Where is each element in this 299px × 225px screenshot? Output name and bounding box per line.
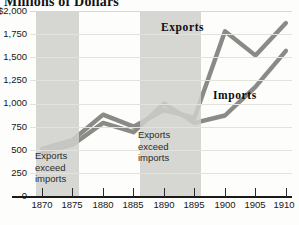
gridline-1250 <box>30 80 292 81</box>
ylabel-1750: 1,750 <box>3 29 27 39</box>
xtick-1890 <box>164 188 165 197</box>
xlabel-1895: 1895 <box>178 199 210 210</box>
xlabel-1875: 1875 <box>56 199 88 210</box>
xlabel-1870: 1870 <box>26 199 58 210</box>
x-axis-line <box>12 196 292 198</box>
xlabel-1910: 1910 <box>268 199 299 210</box>
xlabel-1880: 1880 <box>87 199 119 210</box>
ylabel-2000: $2,000 <box>0 6 27 16</box>
gridline-750 <box>30 127 292 128</box>
ylabel-1250: 1,250 <box>3 75 27 85</box>
ylabel-1000: 1,000 <box>3 98 27 108</box>
y-axis-labels: $2,000 1,750 1,500 1,250 1,000 750 500 2… <box>0 0 27 225</box>
plot-area <box>30 11 292 196</box>
xtick-1910 <box>286 188 287 197</box>
xlabel-1890: 1890 <box>148 199 180 210</box>
annotation-exports-exceed-imports-first: Exports exceed imports <box>35 150 67 185</box>
xlabel-1900: 1900 <box>209 199 241 210</box>
annotation-line-1: Exports <box>35 150 67 162</box>
xtick-1870 <box>42 188 43 197</box>
chart-screenshot: Millions of Dollars $2,000 1 <box>0 0 299 225</box>
gridline-1750 <box>30 34 292 35</box>
gridline-250 <box>30 173 292 174</box>
annotation-line-3: imports <box>138 152 170 164</box>
ylabel-250: 250 <box>11 168 27 178</box>
annotation-line-2: exceed <box>138 141 170 153</box>
series-label-imports: Imports <box>213 89 257 101</box>
gridline-1500 <box>30 57 292 58</box>
xtick-1885 <box>133 188 134 197</box>
xtick-1875 <box>72 188 73 197</box>
annotation-line-3: imports <box>35 173 67 185</box>
series-label-exports: Exports <box>161 21 204 33</box>
xlabel-1905: 1905 <box>239 199 271 210</box>
gridline-2000 <box>30 11 292 12</box>
annotation-line-2: exceed <box>35 162 67 174</box>
xtick-1900 <box>225 188 226 197</box>
ylabel-500: 500 <box>11 145 27 155</box>
xtick-1880 <box>103 188 104 197</box>
ylabel-1500: 1,500 <box>3 52 27 62</box>
annotation-line-1: Exports <box>138 129 170 141</box>
xtick-1905 <box>255 188 256 197</box>
annotation-exports-exceed-imports-second: Exports exceed imports <box>138 129 170 164</box>
xlabel-1885: 1885 <box>117 199 149 210</box>
ylabel-750: 750 <box>11 122 27 132</box>
xtick-1895 <box>194 188 195 197</box>
gridline-1000 <box>30 104 292 105</box>
